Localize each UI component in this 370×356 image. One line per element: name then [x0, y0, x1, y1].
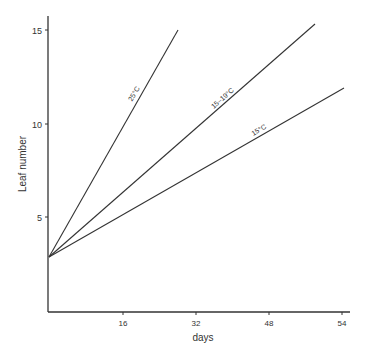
y-ticks: 5 10 15 [32, 26, 48, 223]
x-ticks: 16 32 48 54 [119, 312, 347, 328]
x-tick-label: 54 [338, 319, 347, 328]
x-tick-label: 16 [119, 319, 128, 328]
series-label-15c: 15°C [250, 123, 267, 137]
y-axis-label: Leaf number [17, 135, 28, 192]
x-axis-label: days [192, 332, 213, 343]
series-15c-line [49, 88, 344, 257]
x-tick-label: 48 [265, 319, 274, 328]
x-tick-label: 32 [192, 319, 201, 328]
y-tick-label: 5 [37, 213, 42, 223]
y-tick-label: 15 [32, 26, 42, 36]
series-15-19c-line [49, 24, 315, 257]
y-tick-label: 10 [32, 120, 42, 130]
leaf-number-chart: 5 10 15 16 32 48 54 days Leaf number 25°… [0, 0, 370, 356]
series-25c-line [49, 30, 178, 257]
